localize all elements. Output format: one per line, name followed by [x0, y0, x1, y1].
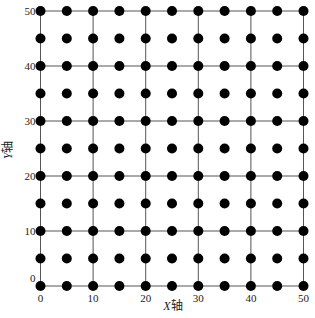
data-point — [36, 199, 46, 209]
data-point — [167, 6, 177, 16]
y-tick-label: 30 — [25, 115, 37, 127]
y-tick-label: 20 — [25, 170, 37, 182]
y-axis-label: Y轴 — [0, 141, 15, 160]
data-point — [167, 171, 177, 181]
data-point — [193, 226, 203, 236]
data-point — [299, 61, 309, 71]
data-point — [167, 226, 177, 236]
data-point — [272, 6, 282, 16]
data-point — [62, 89, 72, 99]
data-point — [114, 171, 124, 181]
data-point — [167, 281, 177, 291]
data-point — [141, 199, 151, 209]
data-point — [114, 281, 124, 291]
data-point — [36, 6, 46, 16]
data-point — [62, 34, 72, 44]
data-point — [88, 226, 98, 236]
data-point — [36, 144, 46, 154]
data-point — [272, 89, 282, 99]
data-point — [272, 226, 282, 236]
x-tick-label: 10 — [88, 292, 100, 304]
data-point — [88, 34, 98, 44]
data-point — [167, 34, 177, 44]
y-tick-label: 10 — [25, 225, 37, 237]
data-point — [88, 254, 98, 264]
data-point — [114, 6, 124, 16]
data-point — [167, 254, 177, 264]
data-point — [36, 254, 46, 264]
data-point — [220, 34, 230, 44]
data-point — [62, 254, 72, 264]
data-point — [272, 281, 282, 291]
data-point — [246, 61, 256, 71]
data-point — [114, 34, 124, 44]
data-point — [272, 144, 282, 154]
data-point — [114, 116, 124, 126]
data-point — [88, 144, 98, 154]
data-point — [36, 61, 46, 71]
data-point — [193, 281, 203, 291]
data-point — [299, 226, 309, 236]
data-point — [246, 171, 256, 181]
x-tick-label: 40 — [245, 292, 257, 304]
data-point — [36, 34, 46, 44]
data-point — [141, 61, 151, 71]
data-point — [299, 171, 309, 181]
data-point — [246, 6, 256, 16]
data-point — [141, 171, 151, 181]
data-point — [246, 226, 256, 236]
data-point — [220, 226, 230, 236]
x-axis-label: X轴 — [162, 298, 182, 313]
data-point — [193, 34, 203, 44]
data-point — [141, 6, 151, 16]
data-point — [114, 226, 124, 236]
data-point — [193, 61, 203, 71]
x-tick-label: 30 — [193, 292, 205, 304]
data-point — [62, 199, 72, 209]
data-point — [193, 116, 203, 126]
data-point — [246, 89, 256, 99]
data-point — [272, 61, 282, 71]
y-tick-label: 0 — [30, 272, 36, 284]
data-point — [193, 199, 203, 209]
data-point — [62, 116, 72, 126]
data-point — [220, 61, 230, 71]
data-point — [36, 171, 46, 181]
data-point — [299, 254, 309, 264]
data-point — [167, 116, 177, 126]
data-point — [272, 116, 282, 126]
data-point — [88, 199, 98, 209]
data-point — [220, 144, 230, 154]
data-point — [246, 144, 256, 154]
data-point — [299, 144, 309, 154]
data-point — [246, 116, 256, 126]
data-point — [141, 281, 151, 291]
data-point — [220, 199, 230, 209]
data-point — [114, 199, 124, 209]
data-points — [36, 6, 309, 291]
data-point — [88, 89, 98, 99]
data-point — [36, 226, 46, 236]
data-point — [272, 199, 282, 209]
data-point — [193, 254, 203, 264]
data-point — [88, 61, 98, 71]
data-point — [299, 89, 309, 99]
data-point — [62, 171, 72, 181]
y-tick-label: 40 — [25, 60, 37, 72]
data-point — [272, 171, 282, 181]
data-point — [88, 116, 98, 126]
x-tick-label: 0 — [38, 292, 44, 304]
data-point — [220, 89, 230, 99]
data-point — [299, 116, 309, 126]
data-point — [167, 199, 177, 209]
data-point — [114, 61, 124, 71]
data-point — [246, 281, 256, 291]
data-point — [141, 144, 151, 154]
data-point — [114, 89, 124, 99]
data-point — [167, 61, 177, 71]
data-point — [167, 89, 177, 99]
data-point — [220, 171, 230, 181]
y-tick-labels: 01020304050 — [25, 5, 37, 284]
data-point — [141, 226, 151, 236]
x-tick-label: 20 — [140, 292, 152, 304]
